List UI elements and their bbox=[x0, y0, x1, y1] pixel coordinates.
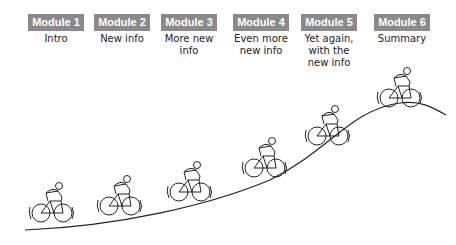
cyclist-4-icon bbox=[242, 138, 286, 178]
hill-line bbox=[25, 102, 446, 230]
cyclist-2-icon bbox=[97, 176, 141, 216]
cyclist-3-icon bbox=[167, 162, 211, 202]
cyclist-1-icon bbox=[29, 183, 73, 223]
cyclist-5-icon bbox=[305, 106, 349, 146]
cyclist-6-icon bbox=[377, 68, 421, 108]
hill-scene bbox=[0, 0, 456, 245]
